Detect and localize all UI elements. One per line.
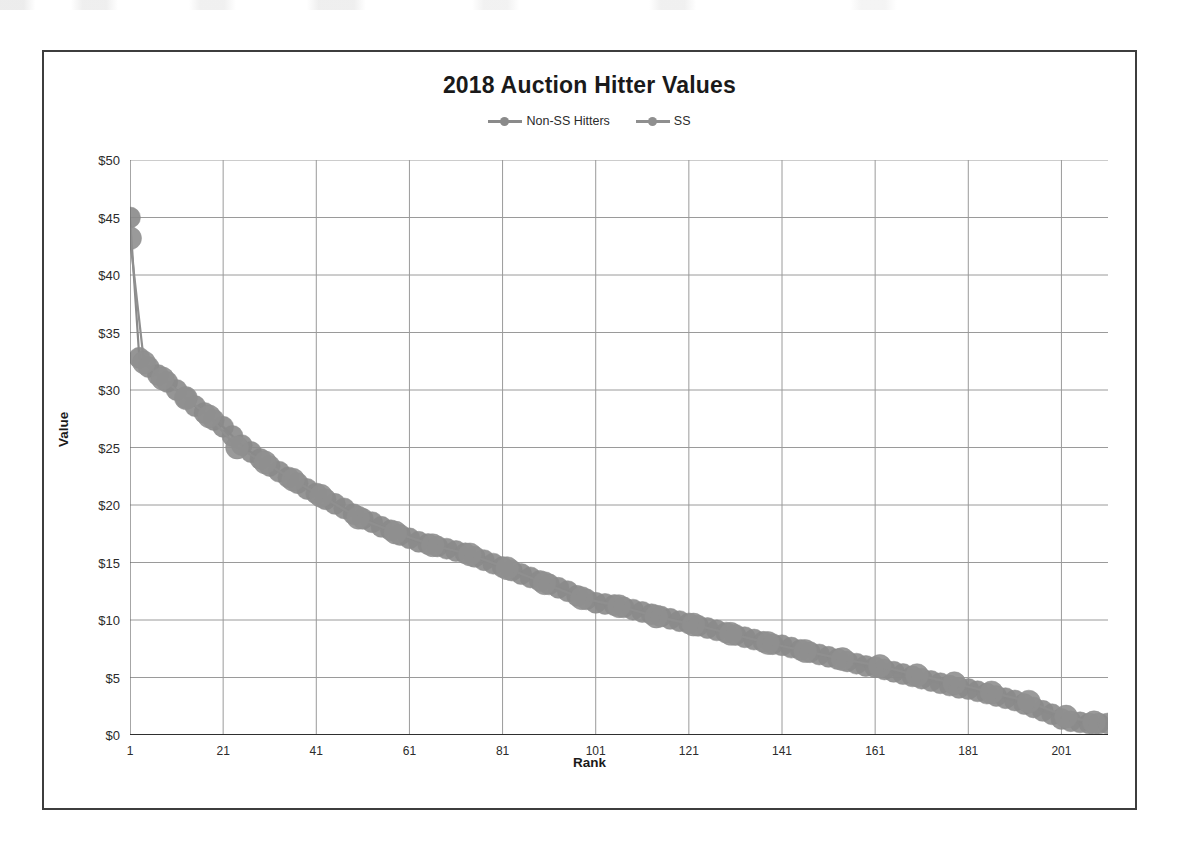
data-series-layer (130, 207, 1108, 734)
legend-item-ss[interactable]: SS (636, 114, 691, 128)
chart-legend: Non-SS Hitters SS (44, 114, 1135, 128)
plot-canvas (130, 160, 1108, 735)
chart-page: 2018 Auction Hitter Values Non-SS Hitter… (0, 0, 1180, 855)
chart-frame: 2018 Auction Hitter Values Non-SS Hitter… (42, 50, 1137, 810)
scan-artifact-strip (0, 0, 1180, 10)
legend-marker-ss (636, 115, 670, 127)
x-axis-title: Rank (44, 755, 1135, 770)
legend-dot-icon (500, 117, 509, 126)
y-tick-label: $0 (106, 728, 120, 743)
y-tick-label: $50 (98, 153, 120, 168)
y-tick-label: $35 (98, 325, 120, 340)
legend-marker-non-ss-hitters (488, 115, 522, 127)
y-tick-label: $20 (98, 498, 120, 513)
y-tick-label: $5 (106, 670, 120, 685)
y-tick-label: $25 (98, 440, 120, 455)
y-tick-label: $30 (98, 383, 120, 398)
y-tick-label: $45 (98, 210, 120, 225)
y-tick-label: $15 (98, 555, 120, 570)
y-tick-label: $40 (98, 268, 120, 283)
gridlines (130, 160, 1108, 735)
y-axis-title: Value (56, 412, 71, 447)
y-tick-label: $10 (98, 613, 120, 628)
legend-item-non-ss-hitters[interactable]: Non-SS Hitters (488, 114, 609, 128)
legend-label-non-ss-hitters: Non-SS Hitters (526, 114, 609, 128)
legend-label-ss: SS (674, 114, 691, 128)
legend-dot-icon (648, 117, 657, 126)
plot-area: $0$5$10$15$20$25$30$35$40$45$50 12141618… (130, 160, 1108, 735)
chart-title: 2018 Auction Hitter Values (44, 72, 1135, 99)
